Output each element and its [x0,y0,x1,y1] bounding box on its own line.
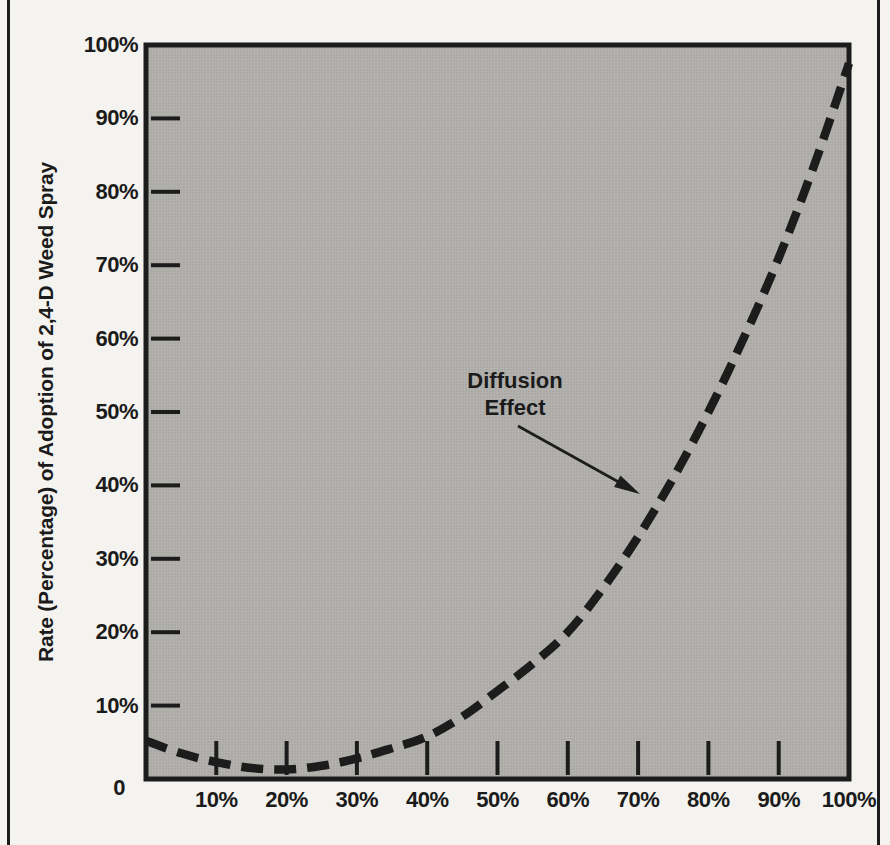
y-tick-label: 30% [40,545,138,573]
y-tick-label: 50% [40,398,138,426]
y-tick-label: 10% [40,692,138,720]
y-tick-label: 0 [27,774,125,802]
annotation-line-1: Diffusion [450,367,580,394]
figure-page: Rate (Percentage) of Adoption of 2,4-D W… [0,0,890,845]
y-tick-label: 60% [40,325,138,353]
y-tick-label: 40% [40,471,138,499]
annotation-label: Diffusion Effect [450,367,580,421]
y-tick-label: 20% [40,618,138,646]
y-tick-label: 90% [40,104,138,132]
y-tick-label: 80% [40,178,138,206]
y-tick-label: 70% [40,251,138,279]
annotation-line-2: Effect [450,394,580,421]
y-tick-label: 100% [40,31,138,59]
x-tick-label: 100% [807,786,890,814]
